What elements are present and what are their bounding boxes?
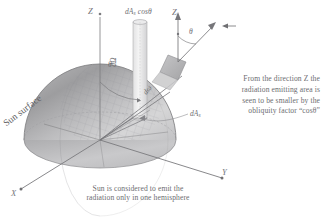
figure-caption: Sun is considered to emit the radiation … — [62, 185, 214, 203]
explanation-line-2: radiation emitting area is — [196, 85, 320, 96]
z-axis-label-secondary: Z — [172, 7, 177, 17]
theta-label-secondary: θ — [189, 28, 193, 37]
x-axis-label: X — [11, 188, 16, 198]
y-axis-label: Y — [222, 167, 227, 177]
radiation-hemisphere-diagram: Z Z X Y Sun surface dAs cosθ dΩ dω θ θ d… — [0, 0, 327, 218]
theta-label-main: θ — [108, 61, 112, 70]
emitting-area-patch — [152, 55, 186, 90]
caption-line-2: radiation only in one hemisphere — [62, 194, 214, 203]
z-axis-label: Z — [88, 6, 93, 16]
explanation-line-4: obliquity factor “cosθ” — [196, 106, 320, 117]
explanation-line-3: seen to be smaller by the — [196, 96, 320, 107]
da-cos-theta-label: dAs cosθ — [125, 8, 152, 17]
observer-direction-group — [175, 12, 236, 62]
explanation-text: From the direction Z the radiation emitt… — [196, 74, 320, 117]
explanation-line-1: From the direction Z the — [196, 74, 320, 85]
